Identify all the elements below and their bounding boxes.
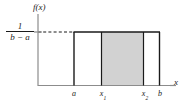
x-tick-subscript-x1: 1 bbox=[103, 95, 106, 101]
x-tick-label-x2: x2 bbox=[142, 90, 148, 100]
y-tick-label-density: 1 b − a bbox=[5, 22, 35, 43]
y-axis-label: f(x) bbox=[33, 3, 46, 12]
x-tick-subscript-x2: 2 bbox=[145, 95, 148, 101]
fraction-numerator: 1 bbox=[5, 22, 35, 31]
x-tick-base-b: b bbox=[158, 89, 162, 98]
x-axis-label: x bbox=[174, 78, 178, 87]
x-tick-base-a: a bbox=[72, 89, 76, 98]
shaded-probability-region bbox=[102, 32, 144, 85]
x-tick-label-b: b bbox=[158, 90, 162, 98]
fraction-denominator: b − a bbox=[5, 32, 35, 42]
uniform-distribution-figure: f(x) x 1 b − a a x1 x2 b bbox=[0, 0, 185, 105]
x-tick-label-a: a bbox=[72, 90, 76, 98]
x-tick-label-x1: x1 bbox=[100, 90, 106, 100]
